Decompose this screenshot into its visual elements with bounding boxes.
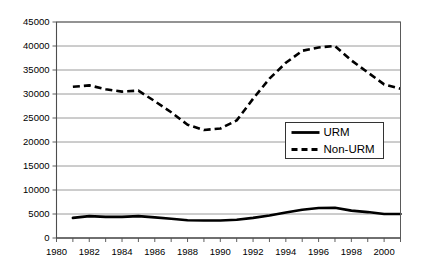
- x-tick-label: 1998: [341, 246, 362, 257]
- x-tick-label: 1994: [275, 246, 296, 257]
- x-tick-label: 1990: [210, 246, 231, 257]
- x-tick-label: 1992: [243, 246, 264, 257]
- y-tick-label: 25000: [23, 112, 49, 123]
- x-tick-label: 1996: [308, 246, 329, 257]
- x-tick-label: 1980: [46, 246, 67, 257]
- x-axis-tick-labels: 1980198219841986198819901992199419961998…: [46, 246, 395, 257]
- y-tick-label: 15000: [23, 160, 49, 171]
- line-chart: 4500040000350003000025000200001500010000…: [0, 0, 422, 272]
- x-tick-label: 1988: [177, 246, 198, 257]
- legend-label: Non-URM: [324, 143, 375, 155]
- y-tick-label: 10000: [23, 184, 49, 195]
- y-axis-tick-marks: [53, 22, 57, 238]
- y-tick-label: 30000: [23, 88, 49, 99]
- x-tick-label: 1982: [79, 246, 100, 257]
- y-tick-label: 0: [44, 232, 49, 243]
- y-tick-label: 40000: [23, 40, 49, 51]
- x-tick-label: 1986: [144, 246, 165, 257]
- y-tick-label: 35000: [23, 64, 49, 75]
- chart-container: 4500040000350003000025000200001500010000…: [0, 0, 422, 272]
- x-tick-label: 1984: [111, 246, 132, 257]
- legend-label: URM: [324, 126, 350, 138]
- y-tick-label: 20000: [23, 136, 49, 147]
- series-line-non-urm: [73, 46, 401, 130]
- y-tick-label: 5000: [28, 208, 49, 219]
- y-tick-label: 45000: [23, 16, 49, 27]
- x-axis-tick-marks: [57, 238, 401, 242]
- x-tick-label: 2000: [374, 246, 395, 257]
- chart-legend: URMNon-URM: [286, 123, 384, 159]
- y-axis-tick-labels: 4500040000350003000025000200001500010000…: [23, 16, 49, 243]
